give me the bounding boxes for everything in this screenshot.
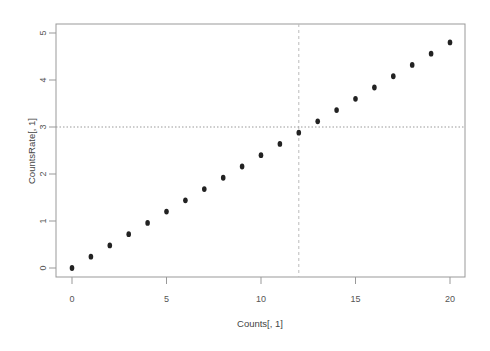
x-tick-label: 15 — [350, 294, 360, 304]
y-tick-label: 3 — [38, 124, 48, 129]
data-point — [391, 73, 396, 79]
data-point — [315, 118, 320, 124]
y-tick-label: 2 — [38, 171, 48, 176]
plot-box — [56, 24, 465, 277]
y-tick-label: 0 — [38, 265, 48, 270]
data-point — [448, 40, 453, 46]
data-point — [372, 85, 377, 91]
data-point — [240, 164, 245, 170]
data-point — [202, 186, 207, 192]
x-tick-label: 10 — [256, 294, 266, 304]
x-axis: 05101520 — [69, 277, 455, 304]
scatter-chart: 05101520 012345 Counts[, 1] CountsRate[,… — [0, 0, 490, 351]
data-point — [410, 62, 415, 68]
data-point — [429, 51, 434, 57]
data-point — [353, 96, 358, 102]
y-tick-label: 5 — [38, 30, 48, 35]
data-point — [89, 254, 94, 260]
data-point — [297, 130, 302, 136]
data-point — [70, 265, 75, 271]
data-point — [145, 220, 150, 226]
data-point — [334, 107, 339, 113]
x-axis-title: Counts[, 1] — [237, 318, 283, 329]
x-tick-label: 5 — [164, 294, 169, 304]
x-tick-label: 20 — [445, 294, 455, 304]
x-tick-label: 0 — [69, 294, 74, 304]
data-point — [183, 197, 188, 203]
y-axis: 012345 — [38, 30, 56, 270]
y-axis-title: CountsRate[, 1] — [26, 118, 37, 184]
data-point — [221, 175, 226, 181]
y-tick-label: 4 — [38, 77, 48, 82]
data-point — [259, 152, 264, 158]
data-point — [278, 141, 283, 147]
data-point — [108, 243, 113, 249]
y-tick-label: 1 — [38, 218, 48, 223]
data-point — [126, 231, 131, 237]
data-point — [164, 209, 169, 215]
